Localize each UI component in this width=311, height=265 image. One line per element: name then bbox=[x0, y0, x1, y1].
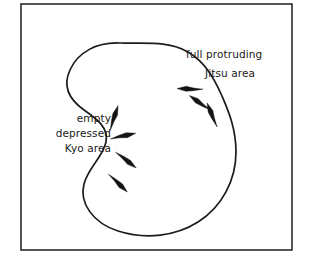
kyo-label-line2: depressed bbox=[56, 127, 111, 139]
kyo-label-line1: empty bbox=[77, 112, 111, 124]
diagram-canvas: full protruding Jitsu area empty depress… bbox=[0, 0, 311, 265]
jitsu-label-line2: Jitsu area bbox=[204, 67, 255, 79]
kyo-label-line3: Kyo area bbox=[65, 142, 111, 154]
jitsu-label-line1: full protruding bbox=[186, 48, 262, 60]
kyo-jitsu-figure: full protruding Jitsu area empty depress… bbox=[0, 0, 311, 265]
